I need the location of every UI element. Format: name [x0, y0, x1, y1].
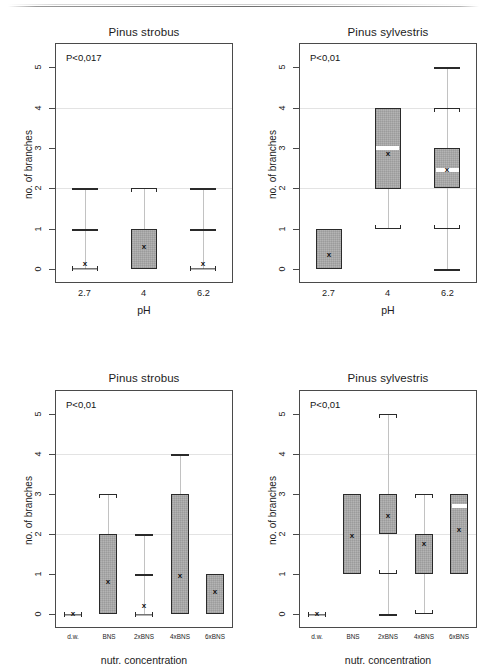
y-axis-tick-4 — [293, 454, 299, 455]
y-axis-tick-label: 4 — [276, 447, 288, 461]
mean-marker-x: x — [382, 512, 394, 520]
x-axis-title: nutr. concentration — [299, 654, 477, 666]
x-axis-tick-label: d.w. — [299, 633, 335, 640]
median-line — [452, 504, 467, 508]
y-axis-tick-label: 1 — [276, 567, 288, 581]
mean-marker-x: x — [453, 526, 465, 534]
y-axis-tick-0 — [293, 614, 299, 615]
whisker-cap-upper — [415, 494, 433, 498]
y-axis-tick-2 — [293, 534, 299, 535]
p-value-annotation: P<0,01 — [310, 399, 340, 410]
y-axis-tick-3 — [293, 494, 299, 495]
x-axis-tick-label: 6xBNS — [441, 633, 477, 640]
x-axis-tick-label: BNS — [335, 633, 371, 640]
mean-marker-x: x — [311, 610, 323, 618]
mean-marker-x: x — [346, 532, 358, 540]
y-axis-tick-label: 5 — [276, 407, 288, 421]
y-axis-title: no. of branches — [267, 476, 278, 545]
panel-title: Pinus sylvestris — [299, 372, 477, 384]
x-axis-tick-label: 4xBNS — [406, 633, 442, 640]
mean-marker-x: x — [418, 540, 430, 548]
y-axis-tick-1 — [293, 574, 299, 575]
y-axis-tick-label: 0 — [276, 607, 288, 621]
whisker-cap-lower — [379, 570, 397, 574]
chart-panel-4: Pinus sylvestris012345no. of branchesP<0… — [0, 0, 487, 670]
whisker-cap-lower — [415, 610, 433, 614]
outlier-level-marker — [379, 614, 397, 616]
whisker-cap-upper — [379, 414, 397, 418]
x-axis-tick-label: 2xBNS — [370, 633, 406, 640]
y-axis-tick-5 — [293, 414, 299, 415]
